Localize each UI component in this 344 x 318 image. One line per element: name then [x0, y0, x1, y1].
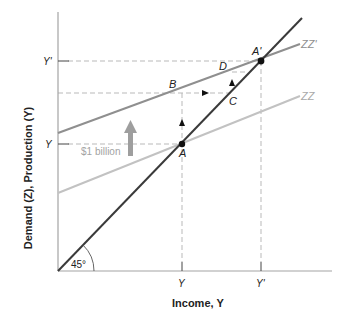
arrow-up-at-a: [179, 119, 185, 126]
y-tick-y-prime: Y': [43, 56, 53, 67]
label-zz: ZZ: [300, 90, 316, 102]
x-tick-y-prime: Y': [256, 278, 266, 289]
label-45-degrees: 45°: [71, 259, 86, 270]
shift-annotation: $1 billion: [81, 146, 120, 157]
x-tick-y: Y: [178, 278, 186, 289]
label-zz-prime: ZZ': [300, 38, 317, 50]
label-c: C: [229, 95, 237, 107]
multiplier-diagram: A A' B C D ZZ' ZZ 45° $1 billion Y' Y Y …: [0, 0, 344, 318]
label-a: A: [178, 147, 186, 159]
axes: [58, 12, 332, 271]
point-a-prime: [258, 58, 265, 65]
y-axis-title: Demand (Z), Production (Y): [22, 106, 34, 249]
y-tick-y: Y: [45, 139, 53, 150]
label-a-prime: A': [251, 45, 262, 57]
label-d: D: [219, 60, 227, 72]
arrow-up-c-to-d: [229, 79, 235, 86]
label-b: B: [169, 78, 176, 90]
shift-arrow: [124, 120, 137, 156]
x-axis-title: Income, Y: [172, 297, 224, 309]
arrow-right-b-to-c: [202, 90, 209, 96]
